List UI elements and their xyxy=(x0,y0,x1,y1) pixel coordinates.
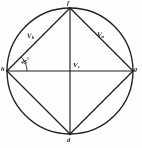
horizontal-axis-label: Vc xyxy=(73,62,80,70)
phasor-a-sub: a xyxy=(102,34,105,39)
degree-symbol: ° xyxy=(27,57,29,63)
chord-upper-right-label: Va xyxy=(97,32,104,40)
vertex-label-left: h xyxy=(1,66,5,73)
chord-left-top xyxy=(7,8,70,71)
angle-45-label: 45° xyxy=(21,58,29,65)
circle-phasor-diagram: f g d h Vb Va Vc 45° xyxy=(0,0,142,148)
diagram-canvas xyxy=(0,0,142,148)
vertex-label-top: f xyxy=(67,0,69,7)
phasor-c-sub: c xyxy=(78,64,80,69)
vertex-dot-bottom xyxy=(69,133,72,136)
phasor-b-sub: b xyxy=(32,35,35,40)
vertex-dot-top xyxy=(69,7,71,9)
chord-bottom-left xyxy=(7,71,70,134)
chord-upper-left-label: Vb xyxy=(27,33,34,41)
vertex-label-right: g xyxy=(134,66,137,73)
chord-right-bottom xyxy=(70,71,133,134)
vertex-dot-left xyxy=(6,70,8,72)
vertex-label-bottom: d xyxy=(67,137,70,144)
